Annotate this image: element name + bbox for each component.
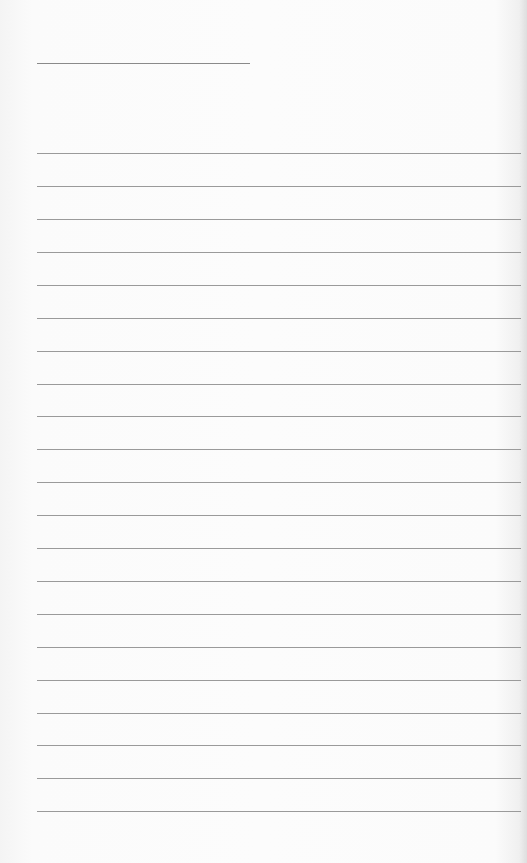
ruled-line	[37, 252, 521, 253]
ruled-line	[37, 680, 521, 681]
ruled-line	[37, 811, 521, 812]
ruled-line	[37, 581, 521, 582]
ruled-line	[37, 318, 521, 319]
ruled-line	[37, 449, 521, 450]
ruled-line	[37, 153, 521, 154]
ruled-line	[37, 351, 521, 352]
ruled-line	[37, 416, 521, 417]
ruled-line	[37, 219, 521, 220]
ruled-line	[37, 745, 521, 746]
ruled-line	[37, 482, 521, 483]
ruled-line	[37, 614, 521, 615]
ruled-line	[37, 778, 521, 779]
ruled-line	[37, 548, 521, 549]
ruled-line	[37, 647, 521, 648]
ruled-line	[37, 186, 521, 187]
page-edge-shadow	[519, 0, 527, 863]
ruled-line	[37, 713, 521, 714]
ruled-line	[37, 285, 521, 286]
ruled-lines-container	[0, 0, 527, 863]
ruled-line	[37, 384, 521, 385]
lined-paper-sheet	[0, 0, 527, 863]
ruled-line	[37, 515, 521, 516]
